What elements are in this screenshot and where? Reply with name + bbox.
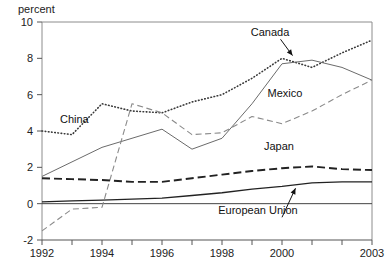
y-axis-tick-label: 10 — [21, 16, 33, 28]
series-label-japan: Japan — [264, 140, 294, 152]
series-line-european-union — [42, 182, 372, 202]
x-axis-tick-label: 1998 — [210, 247, 234, 259]
series-line-canada — [42, 60, 372, 176]
series-label-mexico: Mexico — [268, 87, 303, 99]
x-axis-tick-label: 2003 — [360, 247, 384, 259]
chart-container: percent -2024681019921994199619982000200… — [0, 0, 389, 275]
y-axis-tick-label: -2 — [23, 234, 33, 246]
y-axis-tick-label: 2 — [27, 161, 33, 173]
x-axis-tick-label: 1994 — [90, 247, 114, 259]
x-axis-tick-label: 2000 — [270, 247, 294, 259]
x-axis-tick-label: 1996 — [150, 247, 174, 259]
line-chart-plot: -20246810199219941996199820002003ChinaCa… — [0, 0, 389, 275]
y-axis-tick-label: 4 — [27, 125, 33, 137]
series-label-canada: Canada — [251, 26, 290, 38]
series-line-japan — [42, 166, 372, 181]
y-axis-tick-label: 6 — [27, 89, 33, 101]
plot-frame — [42, 22, 372, 240]
x-axis-tick-label: 1992 — [30, 247, 54, 259]
series-line-mexico — [42, 80, 372, 231]
y-axis-tick-label: 8 — [27, 52, 33, 64]
series-label-china: China — [60, 113, 90, 125]
y-axis-tick-label: 0 — [27, 198, 33, 210]
series-line-china — [42, 40, 372, 134]
annotation-arrowhead-canada — [287, 49, 293, 55]
